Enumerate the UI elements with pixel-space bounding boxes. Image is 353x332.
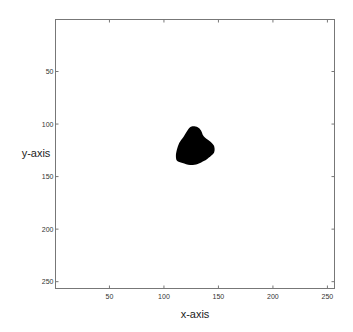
x-tick-label: 150 — [213, 293, 225, 300]
x-tick-label: 100 — [158, 293, 170, 300]
y-tick-label: 100 — [42, 121, 54, 128]
y-tick-label: 250 — [42, 278, 54, 285]
x-tick-label: 50 — [106, 293, 114, 300]
x-tick-label: 200 — [267, 293, 279, 300]
y-tick-label: 150 — [42, 173, 54, 180]
y-tick-label: 50 — [46, 68, 54, 75]
x-tick-label: 250 — [322, 293, 334, 300]
y-tick-label: 200 — [42, 226, 54, 233]
x-axis-label: x-axis — [181, 308, 210, 320]
chart: 50100150200250 50100150200250 x-axis y-a… — [0, 0, 353, 332]
y-axis-label: y-axis — [22, 147, 51, 159]
plot-area — [56, 20, 335, 289]
